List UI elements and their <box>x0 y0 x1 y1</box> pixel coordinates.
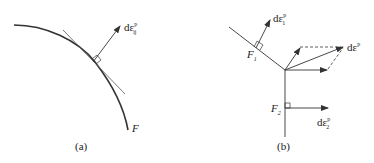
surface-F1-line <box>229 27 285 70</box>
right-angle-marker-2 <box>285 103 290 108</box>
yield-surface-curve <box>14 25 128 130</box>
resultant-label: dεp <box>347 41 360 53</box>
vector2-label: dεp2 <box>317 116 330 130</box>
surface-label-F1: F1 <box>246 48 257 62</box>
normal-vector-1-arrow <box>256 20 270 48</box>
caption-a: (a) <box>75 140 88 153</box>
figure-canvas: dεpij F (a) dεp1 F1 dεp F2 dεp2 (b) <box>0 0 374 163</box>
right-angle-marker-1 <box>254 41 263 50</box>
vector1-label: dεp1 <box>273 12 286 26</box>
surface-label-F2: F2 <box>270 102 281 116</box>
normal-vector-arrow <box>93 26 120 62</box>
vector-label-a: dεpij <box>124 21 137 35</box>
caption-b: (b) <box>277 140 290 153</box>
surface-label-F: F <box>131 122 139 134</box>
panel-b: dεp1 F1 dεp F2 dεp2 (b) <box>229 12 360 153</box>
panel-a: dεpij F (a) <box>14 21 139 153</box>
parallelogram-dash-right <box>328 48 343 69</box>
tangent-line <box>63 30 125 94</box>
resultant-arrow <box>285 47 343 70</box>
